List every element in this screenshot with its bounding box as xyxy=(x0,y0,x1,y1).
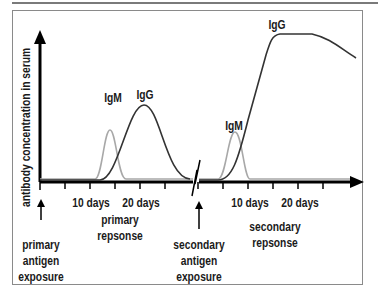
y-axis-label: antibody concentration in serum xyxy=(19,48,33,207)
x-axis-arrow-icon xyxy=(350,176,364,188)
secondary-exposure-label: secondary antigen exposure xyxy=(170,237,227,285)
primary-igm-curve xyxy=(40,130,193,179)
tick-label-secondary-20: 20 days xyxy=(280,195,321,211)
tick-label-primary-20: 20 days xyxy=(121,195,162,211)
primary-exposure-arrow-icon xyxy=(37,199,45,207)
secondary-igm-curve xyxy=(199,132,350,179)
secondary-igm-label: IgM xyxy=(222,118,247,134)
primary-response-label: primary repsonse xyxy=(91,212,148,244)
primary-exposure-label: primary antigen exposure xyxy=(16,237,67,285)
secondary-response-label: secondary repsonse xyxy=(246,219,303,251)
tick-label-secondary-10: 10 days xyxy=(230,195,271,211)
primary-igm-label: IgM xyxy=(101,90,126,106)
y-axis-arrow-icon xyxy=(34,30,46,44)
secondary-igg-curve xyxy=(199,34,356,180)
primary-igg-label: IgG xyxy=(133,87,158,103)
tick-label-primary-10: 10 days xyxy=(71,195,112,211)
secondary-igg-label: IgG xyxy=(265,17,290,33)
secondary-exposure-arrow-icon xyxy=(195,201,203,209)
axis-break-icon xyxy=(192,160,200,196)
